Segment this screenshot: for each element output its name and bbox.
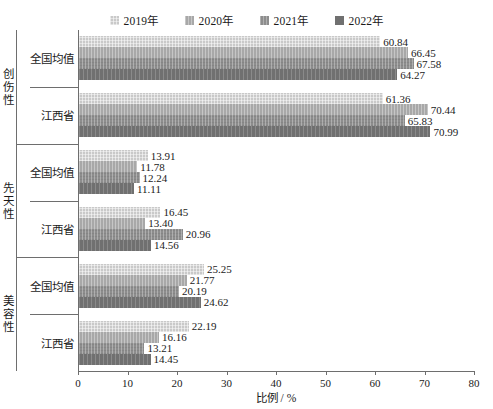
bar-row: 67.58 xyxy=(79,58,475,69)
bar-value-label: 70.99 xyxy=(430,126,458,138)
x-tick xyxy=(78,371,79,375)
bar-row: 66.45 xyxy=(79,47,475,58)
bar-2022年 xyxy=(79,297,201,308)
bar-2020年 xyxy=(79,104,428,115)
x-tick xyxy=(276,371,277,375)
legend-swatch-icon-2022 xyxy=(335,16,344,25)
bar-row: 13.40 xyxy=(79,218,475,229)
legend-label-2022: 2022年 xyxy=(349,12,384,28)
bar-2020年 xyxy=(79,332,159,343)
bar-row: 60.84 xyxy=(79,36,475,47)
x-tick xyxy=(128,371,129,375)
bar-row: 11.11 xyxy=(79,183,475,194)
bar-2020年 xyxy=(79,161,137,172)
legend-label-2021: 2021年 xyxy=(274,12,309,28)
bar-value-label: 11.11 xyxy=(134,183,161,195)
bar-value-label: 13.40 xyxy=(145,217,173,229)
group-bracket-line xyxy=(16,30,17,144)
bar-value-label: 60.84 xyxy=(380,36,408,48)
x-tick xyxy=(326,371,327,375)
bar-row: 21.77 xyxy=(79,275,475,286)
x-tick xyxy=(474,371,475,375)
bar-value-label: 65.83 xyxy=(405,115,433,127)
bar-row: 24.62 xyxy=(79,297,475,308)
x-tick xyxy=(425,371,426,375)
bar-value-label: 64.27 xyxy=(397,69,425,81)
group-bracket-line xyxy=(16,144,17,258)
category-label-1-1: 江西省 xyxy=(30,221,74,237)
legend-swatch-icon-2020 xyxy=(185,16,194,25)
bar-row: 70.44 xyxy=(79,104,475,115)
bar-2022年 xyxy=(79,69,397,80)
legend-item-2021: 2021年 xyxy=(260,12,309,28)
bar-row: 65.83 xyxy=(79,115,475,126)
bar-row: 22.19 xyxy=(79,321,475,332)
bar-value-label: 20.96 xyxy=(183,228,211,240)
category-separator xyxy=(30,201,78,202)
bar-row: 61.36 xyxy=(79,93,475,104)
bar-2020年 xyxy=(79,275,187,286)
legend-label-2020: 2020年 xyxy=(199,12,234,28)
bar-row: 13.21 xyxy=(79,343,475,354)
bar-2022年 xyxy=(79,354,151,365)
legend-item-2020: 2020年 xyxy=(185,12,234,28)
x-tick-label: 50 xyxy=(320,377,331,389)
bar-row: 13.91 xyxy=(79,150,475,161)
bars-container: 60.8466.4567.5864.2761.3670.4465.8370.99… xyxy=(79,30,475,371)
category-label-2-1: 江西省 xyxy=(30,335,74,351)
legend-swatch-icon-2019 xyxy=(110,16,119,25)
bar-2019年 xyxy=(79,36,380,47)
legend-item-2019: 2019年 xyxy=(110,12,159,28)
group-label-1: 先天性 xyxy=(0,181,16,220)
bar-value-label: 22.19 xyxy=(189,320,217,332)
bar-2020年 xyxy=(79,218,145,229)
x-tick xyxy=(227,371,228,375)
bar-2019年 xyxy=(79,207,160,218)
bar-value-label: 24.62 xyxy=(201,296,229,308)
group-label-0: 创伤性 xyxy=(0,67,16,106)
category-separator xyxy=(30,87,78,88)
group-bracket-line xyxy=(16,257,17,371)
x-tick-label: 80 xyxy=(469,377,480,389)
bar-row: 20.19 xyxy=(79,286,475,297)
legend-label-2019: 2019年 xyxy=(124,12,159,28)
bar-2022年 xyxy=(79,126,430,137)
category-label-0-0: 全国均值 xyxy=(30,50,74,66)
bar-row: 20.96 xyxy=(79,229,475,240)
x-tick-label: 0 xyxy=(75,377,81,389)
bar-2020年 xyxy=(79,47,408,58)
bar-row: 14.45 xyxy=(79,354,475,365)
bar-2021年 xyxy=(79,172,140,183)
category-separator xyxy=(30,314,78,315)
plot-area: 60.8466.4567.5864.2761.3670.4465.8370.99… xyxy=(78,30,475,372)
bar-row: 12.24 xyxy=(79,172,475,183)
bar-2019年 xyxy=(79,321,189,332)
legend-item-2022: 2022年 xyxy=(335,12,384,28)
bar-value-label: 61.36 xyxy=(383,93,411,105)
bar-2019年 xyxy=(79,93,383,104)
x-tick xyxy=(177,371,178,375)
bar-2021年 xyxy=(79,58,414,69)
bar-row: 11.78 xyxy=(79,161,475,172)
group-separator xyxy=(16,144,78,145)
x-tick xyxy=(375,371,376,375)
bar-2021年 xyxy=(79,343,144,354)
bar-value-label: 14.45 xyxy=(151,353,179,365)
legend-swatch-icon-2021 xyxy=(260,16,269,25)
x-tick-label: 40 xyxy=(271,377,282,389)
bar-row: 16.45 xyxy=(79,207,475,218)
category-label-2-0: 全国均值 xyxy=(30,278,74,294)
bar-2021年 xyxy=(79,229,183,240)
bar-2019年 xyxy=(79,264,204,275)
x-tick-label: 30 xyxy=(221,377,232,389)
bar-row: 64.27 xyxy=(79,69,475,80)
bar-2019年 xyxy=(79,150,148,161)
bar-row: 14.56 xyxy=(79,240,475,251)
bar-2021年 xyxy=(79,286,179,297)
bar-2021年 xyxy=(79,115,405,126)
category-label-0-1: 江西省 xyxy=(30,107,74,123)
x-tick-label: 60 xyxy=(370,377,381,389)
bar-row: 70.99 xyxy=(79,126,475,137)
category-label-1-0: 全国均值 xyxy=(30,164,74,180)
bar-2022年 xyxy=(79,183,134,194)
